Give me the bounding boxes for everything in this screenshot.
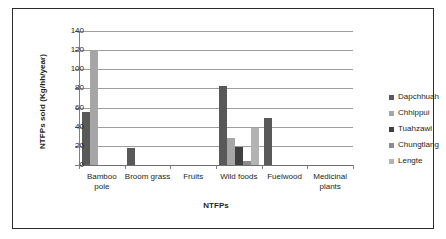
bar[interactable]	[127, 148, 135, 165]
plot-area	[79, 31, 353, 165]
bar[interactable]	[243, 161, 251, 165]
bar-cluster	[307, 31, 353, 165]
bar[interactable]	[82, 112, 90, 165]
legend-item[interactable]: Chungtlang	[389, 137, 439, 153]
legend-item[interactable]: Tuahzawl	[389, 121, 439, 137]
legend-label: Tuahzawl	[398, 125, 432, 133]
chart-legend: DapchhuahChhippuiTuahzawlChungtlangLengt…	[389, 89, 439, 169]
legend-label: Dapchhuah	[398, 93, 439, 101]
x-axis-title: NTFPs	[79, 201, 353, 210]
legend-item[interactable]: Dapchhuah	[389, 89, 439, 105]
legend-swatch-icon	[389, 127, 394, 132]
x-category-label-line: pole	[73, 182, 131, 192]
bar-cluster	[125, 31, 171, 165]
legend-label: Lengte	[398, 157, 422, 165]
bar-series-container	[79, 31, 353, 165]
y-tick-label-100: 100	[56, 65, 84, 73]
x-tick-mark	[216, 165, 217, 169]
bar-cluster	[216, 31, 262, 165]
bar[interactable]	[227, 138, 235, 165]
bar[interactable]	[251, 128, 259, 165]
x-category-label-line: Medicinal	[301, 172, 359, 182]
bar-cluster	[79, 31, 125, 165]
bar[interactable]	[90, 50, 98, 165]
x-category-label: Medicinalplants	[301, 172, 359, 191]
bar-group	[170, 31, 216, 165]
x-tick-mark	[170, 165, 171, 169]
bar-group	[216, 31, 262, 165]
legend-item[interactable]: Lengte	[389, 153, 439, 169]
bar[interactable]	[264, 118, 272, 165]
bar-group	[79, 31, 125, 165]
bar[interactable]	[219, 86, 227, 165]
legend-item[interactable]: Chhippui	[389, 105, 439, 121]
bar-group	[262, 31, 308, 165]
bar[interactable]	[235, 147, 243, 165]
legend-swatch-icon	[389, 95, 394, 100]
y-tick-label-40: 40	[56, 123, 84, 131]
y-tick-label-20: 20	[56, 142, 84, 150]
legend-label: Chhippui	[398, 109, 430, 117]
x-tick-mark	[79, 165, 80, 169]
legend-swatch-icon	[389, 159, 394, 164]
y-tick-label-120: 120	[56, 46, 84, 54]
bar-group	[307, 31, 353, 165]
x-tick-mark	[353, 165, 354, 169]
legend-label: Chungtlang	[398, 141, 439, 149]
y-tick-label-60: 60	[56, 104, 84, 112]
chart-frame: NTFPs sold (Kg/hh/year) 1401201008060402…	[12, 8, 434, 229]
y-tick-label-140: 140	[56, 27, 84, 35]
bar-cluster	[170, 31, 216, 165]
x-tick-mark	[307, 165, 308, 169]
y-axis-title: NTFPs sold (Kg/hh/year)	[38, 27, 47, 177]
bar-group	[125, 31, 171, 165]
x-category-label-line: plants	[301, 182, 359, 192]
chart-figure: NTFPs sold (Kg/hh/year) 1401201008060402…	[0, 0, 446, 239]
x-tick-mark	[125, 165, 126, 169]
bar-cluster	[262, 31, 308, 165]
x-tick-mark	[262, 165, 263, 169]
legend-swatch-icon	[389, 111, 394, 116]
y-tick-label-80: 80	[56, 84, 84, 92]
legend-swatch-icon	[389, 143, 394, 148]
